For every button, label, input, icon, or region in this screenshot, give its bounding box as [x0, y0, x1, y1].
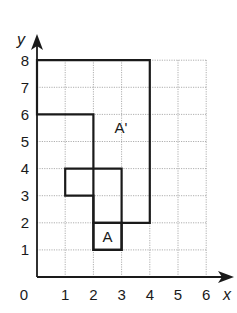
x-tick: 6 — [202, 286, 210, 303]
y-tick: 4 — [21, 160, 29, 177]
y-tick: 7 — [21, 79, 29, 96]
x-tick: 5 — [174, 286, 182, 303]
label-a: A — [102, 228, 112, 245]
x-tick: 1 — [61, 286, 69, 303]
y-tick: 8 — [21, 52, 29, 69]
x-tick: 4 — [146, 286, 154, 303]
coordinate-grid-diagram: A A' y x 0 1 2 3 4 5 6 1 2 3 4 5 6 7 8 — [0, 0, 237, 313]
x-tick: 2 — [89, 286, 97, 303]
y-tick: 2 — [21, 214, 29, 231]
y-tick: 6 — [21, 106, 29, 123]
x-tick-labels: 1 2 3 4 5 6 — [61, 286, 210, 303]
origin-label: 0 — [20, 286, 28, 303]
y-tick: 1 — [21, 241, 29, 258]
x-axis-label: x — [222, 286, 232, 303]
y-axis-label: y — [16, 31, 26, 48]
label-a-prime: A' — [115, 119, 128, 136]
y-tick-labels: 1 2 3 4 5 6 7 8 — [21, 52, 29, 258]
y-tick: 3 — [21, 187, 29, 204]
x-tick: 3 — [117, 286, 125, 303]
y-tick: 5 — [21, 133, 29, 150]
